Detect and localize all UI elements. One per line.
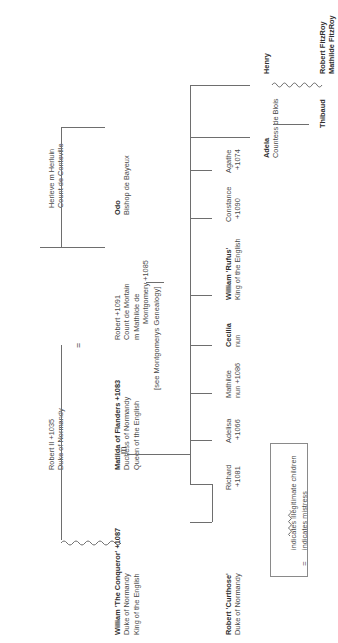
genealogy-chart: Robert II +1035 Duke of Normandy Herleve… <box>0 0 338 643</box>
connector-adela-thibaud <box>273 124 309 125</box>
constance-name: Constance <box>224 187 233 222</box>
connector-herleve-stem <box>40 247 61 248</box>
node-constance: Constance +1090 <box>224 187 243 222</box>
legend-illegitimate-text: indicates illegitimate children <box>289 455 298 550</box>
adela-title: Countess de Blois <box>271 98 280 158</box>
william-rufus-name: William 'Rufus' <box>224 238 233 300</box>
connector-tick-henry <box>190 85 250 86</box>
node-matilda-flanders: Matilda of Flanders +1083 Duchess of Nor… <box>113 380 141 470</box>
connector-branch-robert-mortain <box>61 247 105 248</box>
connector-tick-agathe <box>190 170 212 171</box>
henry-name: Henry <box>262 53 271 74</box>
node-adela: Adela Countess de Blois <box>262 98 281 158</box>
node-fitzroy-children: Robert FitzRoy Mathilde FitzRoy <box>318 15 337 74</box>
node-henry: Henry <box>262 53 271 74</box>
connector-robertii-descent-vertical <box>61 345 62 540</box>
adelisa-death: +1066 <box>233 419 242 443</box>
thibaud-name: Thibaud <box>318 99 327 128</box>
connector-foot-robert-curthose <box>190 522 212 523</box>
legend-equals-symbol: = <box>300 561 309 566</box>
robert-curthose-title: Duke of Normandy <box>233 573 242 635</box>
agathe-death: +1074 <box>233 149 242 173</box>
robert-mortain-name: Robert +1091 <box>113 260 122 340</box>
odo-name: Odo <box>113 155 122 215</box>
robert-mortain-title-1: Count de Mortain <box>122 260 131 340</box>
robert-mortain-title-3: Montgomery +1085 <box>141 260 150 340</box>
connector-tick-william-rufus <box>190 295 212 296</box>
robert-mortain-title-2: m Mathilde de <box>132 260 141 340</box>
connector-tick-cecilia <box>190 345 212 346</box>
mathilde-nun-name: Mathilde <box>224 363 233 398</box>
node-robert-mortain: Robert +1091 Count de Mortain m Mathilde… <box>113 260 150 340</box>
node-mathilde-nun: Mathilde nun +1086 <box>224 363 243 398</box>
connector-tick-adela <box>190 137 250 138</box>
matilda-title-1: Duchess of Normandy <box>122 380 131 470</box>
node-cecilia: Cecilia nun <box>224 323 243 347</box>
robert-ii-name: Robert II +1035 <box>47 408 56 470</box>
william-title-1: Duke of Normandy <box>122 528 131 635</box>
connector-tick-richard <box>190 440 212 441</box>
robert-fitzroy-name: Robert FitzRoy <box>318 15 327 74</box>
node-thibaud: Thibaud <box>318 99 327 128</box>
connector-wavy-illegitimate-fitzroy <box>272 80 322 90</box>
herleve-name: Herleve m Herluin <box>47 143 56 208</box>
adela-name: Adela <box>262 98 271 158</box>
mathilde-nun-title: nun +1086 <box>233 363 242 398</box>
node-william-conqueror: William 'The Conqueror' +1087 Duke of No… <box>113 528 141 635</box>
node-robert-curthose: Robert 'Curthose' Duke of Normandy <box>224 573 243 635</box>
mathilde-fitzroy-name: Mathilde FitzRoy <box>327 15 336 74</box>
richard-name: Richard <box>224 465 233 490</box>
odo-title: Bishop de Bayeux <box>122 155 131 215</box>
node-robert-ii: Robert II +1035 Duke of Normandy <box>47 408 66 470</box>
william-name: William 'The Conqueror' +1087 <box>113 528 122 635</box>
constance-death: +1090 <box>233 187 242 222</box>
richard-death: +1081 <box>233 465 242 490</box>
adelisa-name: Adelisa <box>224 419 233 443</box>
node-william-rufus: William 'Rufus' King of the English <box>224 238 243 300</box>
william-rufus-title: King of the English <box>233 238 242 300</box>
connector-tick-mathilde <box>190 393 212 394</box>
cecilia-title: nun <box>233 323 242 347</box>
william-title-2: King of the English <box>132 528 141 635</box>
connector-tick-robert-curthose <box>190 484 212 485</box>
node-odo: Odo Bishop de Bayeux <box>113 155 132 215</box>
node-richard: Richard +1081 <box>224 465 243 490</box>
robert-curthose-name: Robert 'Curthose' <box>224 573 233 635</box>
node-adelisa: Adelisa +1066 <box>224 419 243 443</box>
union-equals-symbol: = <box>73 343 83 348</box>
cecilia-name: Cecilia <box>224 323 233 347</box>
connector-marriage-line <box>127 454 190 455</box>
matilda-title-2: Queen of the English <box>132 380 141 470</box>
connector-drop-robert-curthose <box>212 484 213 522</box>
connector-montgomery-tick <box>146 282 164 283</box>
connector-children-spine <box>190 85 191 485</box>
node-herleve: Herleve m Herluin Count de Conteville <box>47 143 66 208</box>
legend-mistress-text: indicates mistress <box>300 491 309 550</box>
agathe-name: Agathe <box>224 149 233 173</box>
montgomery-genealogy-note: [see Montgomerys Genealogy] <box>152 287 161 390</box>
node-agathe: Agathe +1074 <box>224 149 243 173</box>
connector-tick-constance <box>190 218 212 219</box>
connector-branch-odo <box>61 127 105 128</box>
matilda-name: Matilda of Flanders +1083 <box>113 380 122 470</box>
marriage-m-symbol: m <box>118 447 128 455</box>
connector-herleve-spine <box>61 127 62 247</box>
